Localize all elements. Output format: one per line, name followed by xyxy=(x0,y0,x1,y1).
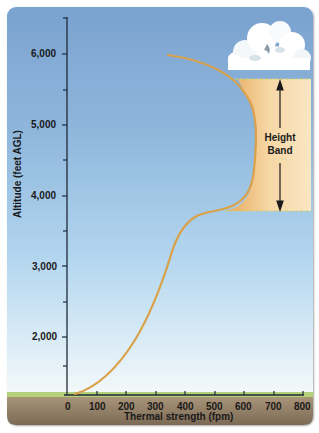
y-tick-label-2000: 2,000 xyxy=(32,331,57,342)
y-tick-label-5000: 5,000 xyxy=(31,119,56,130)
x-tick-label-0: 0 xyxy=(65,401,71,412)
height-band-label: Height Band xyxy=(260,131,300,157)
height-band-label-line2: Band xyxy=(260,144,300,157)
thermal-curve xyxy=(75,55,256,394)
height-band-label-line1: Height xyxy=(260,131,300,144)
cloud-icon xyxy=(228,21,311,70)
x-tick-label-800: 800 xyxy=(294,401,311,412)
y-ticks xyxy=(62,18,67,366)
chart-svg xyxy=(0,0,319,433)
y-tick-label-4000: 4,000 xyxy=(31,190,56,201)
y-axis-title: Altitude (feet AGL) xyxy=(12,130,23,218)
x-tick-label-100: 100 xyxy=(89,401,106,412)
x-tick-label-600: 600 xyxy=(235,401,252,412)
x-axis-title: Thermal strength (fpm) xyxy=(124,411,233,422)
y-tick-label-3000: 3,000 xyxy=(32,261,57,272)
x-tick-label-700: 700 xyxy=(265,401,282,412)
y-tick-label-6000: 6,000 xyxy=(31,48,56,59)
